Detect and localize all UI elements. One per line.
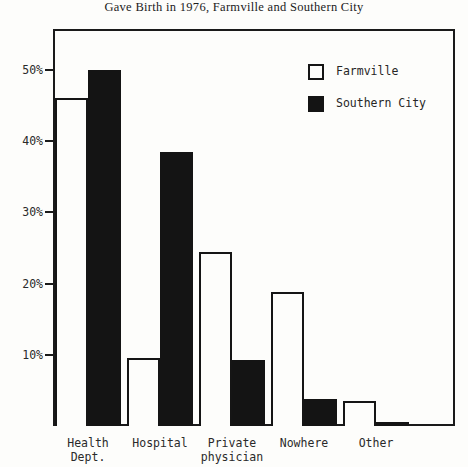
bar-southern-city (376, 422, 409, 426)
x-axis-category-label: Other (331, 436, 421, 450)
bar-southern-city (88, 70, 121, 426)
legend-item-label: Southern City (336, 96, 426, 110)
filled-square-icon (308, 96, 324, 112)
bar-farmville (199, 252, 232, 426)
bar-southern-city (160, 152, 193, 426)
page-title: Gave Birth in 1976, Farmville and Southe… (0, 0, 468, 15)
plot-area (53, 29, 455, 426)
bar-farmville (271, 292, 304, 426)
hollow-square-icon (308, 64, 324, 80)
bar-southern-city (304, 399, 337, 426)
y-axis-tick-label: 30% (1, 205, 43, 219)
y-axis-tick-label: 20% (1, 277, 43, 291)
bar-farmville (55, 98, 88, 426)
bar-southern-city (232, 360, 265, 426)
bar-farmville (343, 401, 376, 426)
y-axis-tick-label: 10% (1, 348, 43, 362)
y-axis-tick-label: 50% (1, 63, 43, 77)
chart-page: Gave Birth in 1976, Farmville and Southe… (0, 0, 468, 467)
bar-farmville (127, 358, 160, 426)
legend-item-label: Farmville (336, 64, 398, 78)
y-axis-tick-label: 40% (1, 134, 43, 148)
